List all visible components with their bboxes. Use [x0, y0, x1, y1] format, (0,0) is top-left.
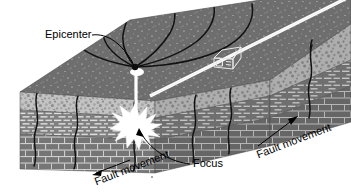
earthquake-block-diagram: Epicenter Focus Fault movement Fault mov…	[0, 0, 351, 196]
epicenter-label: Epicenter	[45, 29, 91, 40]
focus-label: Focus	[193, 158, 223, 169]
stray-mark	[151, 176, 153, 178]
